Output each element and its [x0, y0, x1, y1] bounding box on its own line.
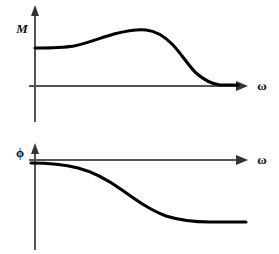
phase-x-axis-label: ω	[257, 152, 267, 167]
magnitude-response-curve	[35, 30, 238, 85]
phase-y-axis-arrowhead	[31, 143, 39, 154]
phase-y-axis-label: ϕ	[16, 145, 24, 160]
plot-canvas: M ω ϕ ω	[0, 0, 279, 254]
magnitude-y-axis-arrowhead	[31, 5, 39, 16]
phase-x-axis-arrowhead	[236, 155, 248, 165]
phase-response-curve	[31, 163, 246, 222]
phase-plot: ϕ ω	[16, 143, 267, 250]
bode-plot-figure: M ω ϕ ω	[0, 0, 279, 254]
magnitude-plot: M ω	[15, 5, 267, 122]
magnitude-y-axis-label: M	[15, 21, 28, 36]
magnitude-x-axis-label: ω	[257, 78, 267, 93]
